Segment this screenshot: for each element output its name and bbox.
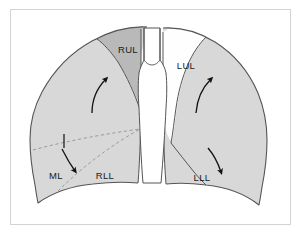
label-right-lower-lobe: RLL	[96, 170, 114, 181]
label-right-upper-lobe: RUL	[118, 44, 138, 55]
trachea-and-mediastinum	[138, 28, 167, 183]
label-right-middle-lobe: ML	[49, 170, 63, 181]
label-left-upper-lobe: LUL	[177, 60, 195, 71]
lung-lobe-figure: RUL LUL ML RLL LLL	[0, 0, 301, 235]
label-left-lower-lobe: LLL	[194, 172, 211, 183]
lung-diagram-svg: RUL LUL ML RLL LLL	[0, 0, 301, 235]
